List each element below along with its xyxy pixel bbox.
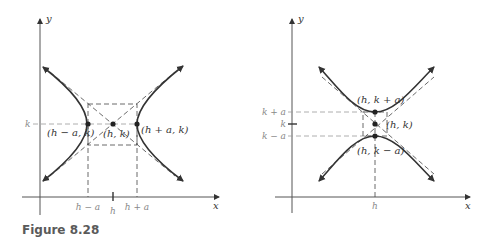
left-x-tick-h-plus-a: h + a — [125, 202, 149, 212]
right-y-tick-k-minus-a: k − a — [262, 131, 286, 141]
left-vertex-right-label: (h + a, k) — [141, 124, 188, 135]
left-x-axis-label: x — [213, 200, 219, 211]
right-y-tick-k-label: k — [281, 119, 286, 129]
left-panel: y x (h − a, k) (h, k) (h + a, k) k h − a… — [22, 13, 219, 216]
left-x-tick-h: h — [110, 206, 116, 216]
right-vertex-lower-point — [372, 133, 377, 138]
figure-canvas: y x (h − a, k) (h, k) (h + a, k) k h − a… — [0, 0, 499, 242]
right-vertex-lower-label: (h, k − a) — [357, 145, 404, 156]
left-y-axis-label: y — [45, 13, 52, 24]
right-hyperbola-lower-branch-right — [375, 136, 434, 181]
left-vertex-right-point — [134, 121, 139, 126]
left-x-tick-h-minus-a: h − a — [76, 202, 100, 212]
left-vertex-left-label: (h − a, k) — [47, 127, 94, 138]
left-hyperbola-right-branch — [137, 66, 183, 124]
right-hyperbola-upper-branch — [319, 67, 375, 112]
left-hyperbola-left-branch — [43, 67, 87, 124]
right-center-label: (h, k) — [386, 119, 413, 130]
left-center-label: (h, k) — [103, 128, 130, 139]
right-x-axis-label: x — [465, 200, 471, 211]
right-hyperbola-lower-branch — [319, 136, 375, 181]
right-panel: y x (h, k + a) (h, k) (h, k − a) k + a k… — [262, 13, 471, 213]
right-center-point — [372, 121, 377, 126]
left-y-tick-k: k — [25, 119, 30, 129]
right-vertex-upper-label: (h, k + a) — [357, 94, 404, 105]
right-y-tick-k-plus-a: k + a — [262, 107, 286, 117]
right-hyperbola-upper-branch-right — [375, 67, 434, 112]
right-y-axis-label: y — [297, 13, 304, 24]
right-x-tick-h: h — [372, 201, 378, 211]
left-vertex-left-point — [85, 121, 90, 126]
right-vertex-upper-point — [372, 109, 377, 114]
figure-caption: Figure 8.28 — [22, 223, 99, 237]
left-center-point — [110, 121, 115, 126]
